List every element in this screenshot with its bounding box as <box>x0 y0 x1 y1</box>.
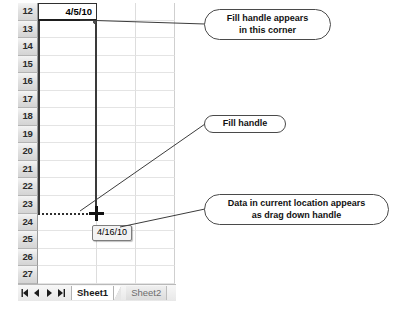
grid-cell[interactable] <box>136 161 175 179</box>
right-arrow-icon <box>45 289 53 297</box>
row-header[interactable]: 22 <box>18 178 38 196</box>
left-arrow-icon <box>33 289 41 297</box>
callout-3-line-2: as drag down handle <box>228 210 366 222</box>
table-row[interactable]: 19 <box>18 126 176 144</box>
grid-cell[interactable] <box>136 56 175 74</box>
sheet-tab-sheet1[interactable]: Sheet1 <box>71 286 114 300</box>
callout-drag-down-handle: Data in current location appears as drag… <box>204 194 389 225</box>
table-row[interactable]: 22 <box>18 178 176 196</box>
callout-2-line-1: Fill handle <box>223 118 268 130</box>
grid-cell[interactable] <box>97 3 136 21</box>
grid-cell[interactable] <box>97 56 136 74</box>
grid-cell[interactable] <box>97 108 136 126</box>
row-header[interactable]: 13 <box>18 21 38 39</box>
crosshair-cursor-icon <box>89 206 104 221</box>
next-sheet-button[interactable] <box>43 287 55 300</box>
grid-cell[interactable] <box>136 214 175 232</box>
grid-cell[interactable] <box>136 143 175 161</box>
sheet-nav-buttons[interactable] <box>18 287 67 300</box>
table-row[interactable]: 20 <box>18 143 176 161</box>
spreadsheet-pane[interactable]: 12 4/5/10 13 14 15 16 <box>18 3 176 284</box>
grid-cell[interactable] <box>38 21 97 39</box>
grid-cell[interactable] <box>136 196 175 214</box>
row-header[interactable]: 27 <box>18 266 38 284</box>
grid-cell[interactable] <box>38 38 97 56</box>
row-header[interactable]: 20 <box>18 143 38 161</box>
row-header[interactable]: 26 <box>18 249 38 267</box>
first-sheet-button[interactable] <box>19 287 31 300</box>
callout-1-line-1: Fill handle appears <box>227 13 309 25</box>
callout-3-line-1: Data in current location appears <box>228 198 366 210</box>
grid-cell[interactable] <box>136 178 175 196</box>
grid-cell[interactable] <box>38 231 97 249</box>
grid-cell[interactable] <box>136 21 175 39</box>
table-row[interactable]: 26 <box>18 249 176 267</box>
last-arrow-icon <box>57 289 66 297</box>
grid-cell[interactable] <box>97 143 136 161</box>
row-header[interactable]: 23 <box>18 196 38 214</box>
grid-cell[interactable] <box>97 126 136 144</box>
grid-cell[interactable] <box>136 126 175 144</box>
grid-cell[interactable] <box>38 73 97 91</box>
grid-cell[interactable] <box>136 73 175 91</box>
previous-sheet-button[interactable] <box>31 287 43 300</box>
grid-cell[interactable] <box>136 91 175 109</box>
callout-fill-handle-corner: Fill handle appears in this corner <box>204 9 331 40</box>
table-row[interactable]: 21 <box>18 161 176 179</box>
drag-value-tooltip: 4/16/10 <box>92 225 132 241</box>
last-sheet-button[interactable] <box>55 287 67 300</box>
row-header[interactable]: 18 <box>18 108 38 126</box>
grid-cell[interactable] <box>38 126 97 144</box>
table-row[interactable]: 13 <box>18 21 176 39</box>
grid-cell[interactable] <box>97 178 136 196</box>
table-row[interactable]: 18 <box>18 108 176 126</box>
first-arrow-icon <box>21 289 30 297</box>
row-header[interactable]: 16 <box>18 73 38 91</box>
grid-cell[interactable] <box>136 3 175 21</box>
active-cell[interactable]: 4/5/10 <box>38 3 97 21</box>
grid-cell[interactable] <box>38 178 97 196</box>
row-header[interactable]: 25 <box>18 231 38 249</box>
grid-cell[interactable] <box>136 38 175 56</box>
grid-cell[interactable] <box>38 249 97 267</box>
grid-cell[interactable] <box>97 91 136 109</box>
grid-cell[interactable] <box>97 266 136 284</box>
callout-fill-handle: Fill handle <box>204 115 286 133</box>
grid-cell[interactable] <box>97 161 136 179</box>
grid-cell[interactable] <box>38 143 97 161</box>
grid-cell[interactable] <box>97 38 136 56</box>
grid-cell[interactable] <box>97 249 136 267</box>
table-row[interactable]: 27 <box>18 266 176 284</box>
sheet-tab-sheet2[interactable]: Sheet2 <box>126 286 167 300</box>
fill-handle-dot-icon[interactable] <box>93 20 97 24</box>
grid-cell[interactable] <box>136 266 175 284</box>
grid-cell[interactable] <box>136 231 175 249</box>
grid-cell[interactable] <box>38 108 97 126</box>
row-header[interactable]: 21 <box>18 161 38 179</box>
drag-selection-right-edge <box>95 21 97 214</box>
row-header[interactable]: 24 <box>18 214 38 232</box>
grid-cell[interactable] <box>136 249 175 267</box>
table-row[interactable]: 14 <box>18 38 176 56</box>
callout-1-line-2: in this corner <box>227 25 309 37</box>
row-header[interactable]: 17 <box>18 91 38 109</box>
grid-cell[interactable] <box>38 266 97 284</box>
table-row[interactable]: 12 4/5/10 <box>18 3 176 21</box>
row-header[interactable]: 14 <box>18 38 38 56</box>
worksheet-grid[interactable]: 12 4/5/10 13 14 15 16 <box>18 3 176 284</box>
row-header[interactable]: 15 <box>18 56 38 74</box>
grid-cell[interactable] <box>38 161 97 179</box>
grid-cell[interactable] <box>97 21 136 39</box>
grid-cell[interactable] <box>136 108 175 126</box>
table-row[interactable]: 15 <box>18 56 176 74</box>
grid-cell[interactable] <box>97 73 136 91</box>
drag-selection-left-edge <box>38 21 40 214</box>
row-header[interactable]: 12 <box>18 3 38 21</box>
table-row[interactable]: 16 <box>18 73 176 91</box>
grid-cell[interactable] <box>38 91 97 109</box>
table-row[interactable]: 17 <box>18 91 176 109</box>
tab-separator <box>114 286 121 300</box>
grid-cell[interactable] <box>38 56 97 74</box>
sheet-tab-bar[interactable]: Sheet1 Sheet2 <box>18 284 176 301</box>
row-header[interactable]: 19 <box>18 126 38 144</box>
